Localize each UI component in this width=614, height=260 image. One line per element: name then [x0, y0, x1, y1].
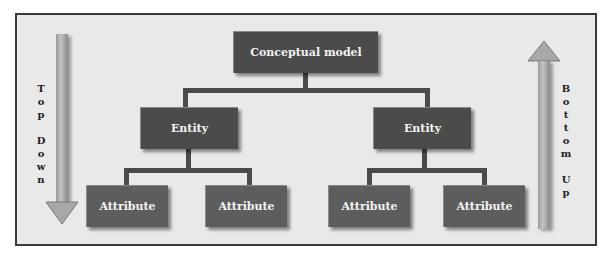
connector-entity2-bar	[367, 168, 487, 173]
attribute-box: Attribute	[328, 185, 410, 227]
attribute-box: Attribute	[443, 185, 525, 227]
attribute-box: Attribute	[205, 185, 287, 227]
connector-entity1-drop	[183, 88, 188, 108]
arrow-down-icon	[44, 200, 80, 226]
entity-box: Entity	[373, 107, 471, 149]
connector-attr4-drop	[482, 168, 487, 186]
connector-attr1-drop	[124, 168, 129, 186]
connector-entity2-drop	[425, 88, 430, 108]
conceptual-model-box: Conceptual model	[233, 31, 378, 73]
connector-entity1-bar	[124, 168, 252, 173]
bottom-up-arrow-shaft	[538, 61, 550, 229]
connector-root-bar	[183, 88, 430, 93]
bottom-up-label: B o t t o m U p	[558, 82, 574, 199]
top-down-arrow-shaft	[56, 34, 68, 204]
connector-attr2-drop	[247, 168, 252, 186]
connector-attr3-drop	[367, 168, 372, 186]
top-down-label: T o p D o w n	[33, 82, 49, 186]
arrow-up-icon	[526, 39, 562, 63]
entity-box: Entity	[140, 107, 238, 149]
attribute-box: Attribute	[86, 185, 168, 227]
